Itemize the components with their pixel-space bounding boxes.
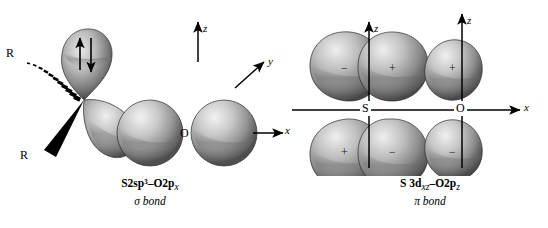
panel-pi-bond: S O z z x − + + + − − S 3dxz–O2pz π bond: [290, 0, 548, 228]
axis-label-y: y: [268, 55, 273, 67]
axis-label-x: x: [524, 101, 529, 113]
caption-sigma-line2: σ bond: [60, 194, 240, 208]
pi-bond-drawing: [290, 0, 548, 176]
substituent-label-r-solid: R: [20, 148, 28, 163]
lobe-sign-lower-middle: −: [389, 145, 396, 160]
sigma-bond-drawing: [0, 0, 290, 176]
caption-pi-subscript-b: z: [456, 181, 460, 192]
lobe-sign-lower-left: +: [341, 145, 348, 160]
lobe-sign-lower-right: −: [449, 145, 456, 160]
bond-solid-wedge: [44, 100, 84, 157]
panel-sigma-bond: R R O z y x S2sp³–O2px σ bond: [0, 0, 290, 228]
atom-label-oxygen: O: [454, 101, 467, 116]
lobe-sign-upper-left: −: [341, 61, 348, 76]
caption-pi-bond: S 3dxz–O2pz π bond: [340, 176, 520, 208]
caption-sigma-bond: S2sp³–O2px σ bond: [60, 176, 240, 208]
atom-label-sulfur: S: [360, 101, 371, 116]
axis-label-z-sulfur: z: [374, 22, 378, 34]
lobe-sign-upper-right: +: [449, 61, 456, 76]
axis-label-z-oxygen: z: [467, 14, 471, 26]
atom-label-oxygen: O: [180, 126, 189, 141]
caption-sigma-formula: S2sp³–O2p: [121, 177, 174, 189]
orbital-overlap-figure: R R O z y x S2sp³–O2px σ bond: [0, 0, 548, 228]
caption-sigma-line1: S2sp³–O2px: [60, 176, 240, 194]
axis-label-z: z: [203, 22, 207, 34]
lobe-sign-upper-middle: +: [389, 61, 396, 76]
caption-sigma-subscript: x: [175, 181, 179, 192]
caption-pi-line1: S 3dxz–O2pz: [340, 176, 520, 194]
caption-pi-line2: π bond: [340, 194, 520, 208]
substituent-label-r-hashed: R: [6, 46, 14, 61]
axis-y-arrow: [235, 62, 264, 88]
caption-pi-formula-a: S 3d: [400, 177, 421, 189]
caption-pi-formula-b: –O2p: [429, 177, 456, 189]
